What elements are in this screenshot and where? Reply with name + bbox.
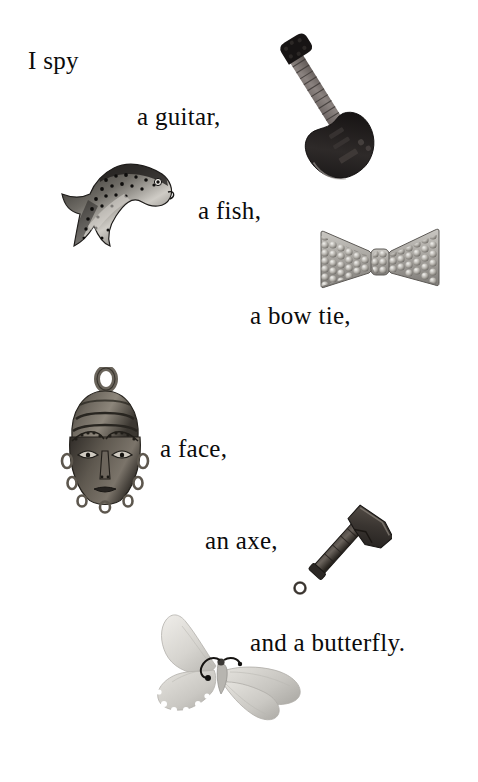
mask-image [50, 367, 160, 517]
butterfly-image [152, 608, 308, 728]
axe-image [286, 498, 392, 598]
guitar-image [268, 28, 390, 188]
riddle-line-a-face: a face, [160, 436, 227, 461]
riddle-line-a-fish: a fish, [198, 198, 261, 223]
riddle-line-a-bow-tie: a bow tie, [250, 303, 351, 328]
bow-tie-image [313, 227, 447, 299]
fish-image [58, 156, 184, 268]
riddle-line-a-guitar: a guitar, [137, 104, 221, 129]
i-spy-page: I spy a guitar, a fish, a bow tie, a fac… [0, 0, 478, 782]
riddle-line-i-spy: I spy [28, 48, 79, 73]
riddle-line-and-a-butterfly: and a butterfly. [250, 630, 405, 655]
riddle-line-an-axe: an axe, [205, 528, 278, 553]
